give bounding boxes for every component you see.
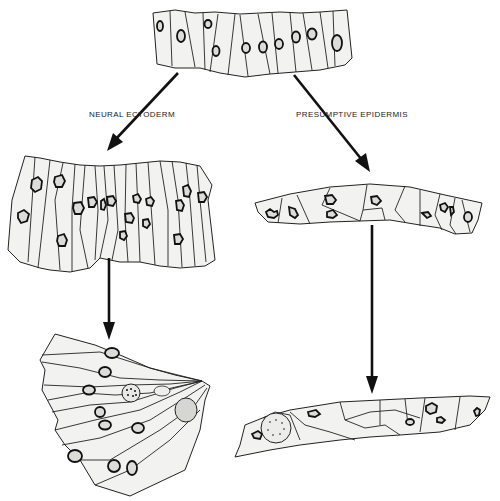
arrow-neural-downward [103, 258, 115, 340]
neural-ectoderm-label: NEURAL ECTODERM [89, 110, 175, 119]
presumptive-epidermis-label: PRESUMPTIVE EPIDERMIS [296, 110, 408, 119]
diagram-canvas [0, 0, 500, 501]
epidermis-thin-sheet [235, 396, 490, 457]
neural-fold-cells [40, 334, 210, 496]
neural-ectoderm-sheet [8, 156, 215, 272]
arrow-epidermis-downward [366, 225, 378, 394]
arrow-to-presumptive-epidermis [294, 75, 370, 172]
ectoderm-sheet [153, 10, 352, 77]
epidermis-sheet [255, 184, 482, 234]
